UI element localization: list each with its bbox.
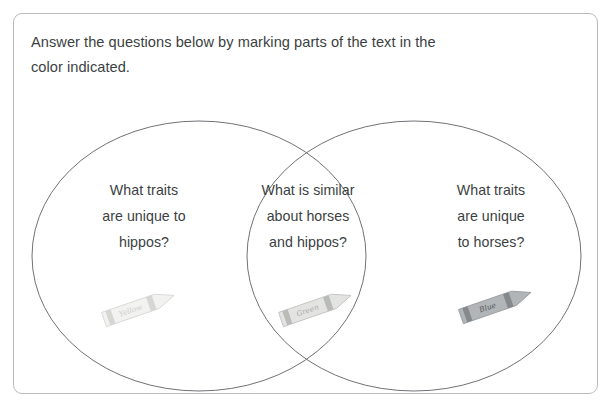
venn-region-right: What traits are unique to horses?	[426, 177, 556, 255]
venn-region-left-line-3: hippos?	[64, 229, 224, 255]
venn-circle-right	[247, 121, 581, 391]
venn-region-center-line-3: and hippos?	[238, 229, 378, 255]
venn-region-center-line-2: about horses	[238, 203, 378, 229]
worksheet-card: Answer the questions below by marking pa…	[13, 13, 598, 394]
venn-region-left-line-1: What traits	[64, 177, 224, 203]
venn-region-right-line-2: are unique	[426, 203, 556, 229]
venn-region-right-line-3: to horses?	[426, 229, 556, 255]
venn-region-left-line-2: are unique to	[64, 203, 224, 229]
venn-region-center-line-1: What is similar	[238, 177, 378, 203]
venn-region-right-line-1: What traits	[426, 177, 556, 203]
venn-circle-left	[32, 121, 366, 391]
venn-region-center: What is similar about horses and hippos?	[238, 177, 378, 255]
venn-region-left: What traits are unique to hippos?	[64, 177, 224, 255]
